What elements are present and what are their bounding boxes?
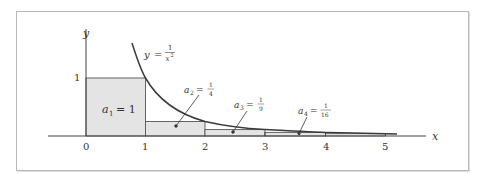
svg-text:3: 3 (240, 104, 244, 111)
svg-text:a: a (102, 103, 109, 116)
x-tick-3: 3 (262, 141, 268, 152)
svg-text:1: 1 (324, 102, 328, 109)
y-tick-1: 1 (74, 72, 80, 83)
x-tick-0: 0 (83, 141, 89, 152)
svg-text:1: 1 (109, 110, 113, 118)
svg-text:4: 4 (304, 110, 308, 117)
x-axis-label: x (432, 130, 439, 143)
svg-text:=: = (310, 106, 318, 116)
svg-text:1: 1 (259, 96, 263, 103)
y-axis-label: y (82, 27, 90, 40)
label-a1: a 1 = 1 (102, 103, 136, 118)
rect-a2 (146, 122, 206, 137)
svg-text:2: 2 (171, 52, 174, 58)
svg-text:y: y (143, 49, 150, 60)
svg-text:1: 1 (209, 81, 213, 88)
svg-text:= 1: = 1 (116, 103, 136, 116)
curve-label: y = 1 x 2 (143, 44, 175, 63)
rect-a4 (265, 132, 326, 136)
label-a2: a 2 = 1 4 (184, 81, 214, 97)
series-area-diagram: y x 1 0 1 2 3 4 5 y = 1 x 2 a 1 = 1 a 2 … (0, 0, 479, 174)
rect-a3 (205, 130, 265, 136)
svg-text:=: = (246, 100, 254, 110)
x-tick-5: 5 (382, 141, 388, 152)
svg-text:9: 9 (259, 105, 263, 112)
x-tick-4: 4 (323, 141, 329, 152)
svg-text:1: 1 (168, 44, 172, 52)
label-a4: a 4 = 1 16 (298, 102, 331, 118)
svg-text:2: 2 (190, 89, 194, 96)
x-tick-1: 1 (142, 141, 148, 152)
svg-text:x: x (166, 55, 170, 63)
leader-a3 (233, 111, 247, 132)
svg-text:a: a (234, 100, 239, 110)
svg-text:=: = (196, 85, 204, 95)
svg-text:a: a (184, 85, 189, 95)
label-a3: a 3 = 1 9 (234, 96, 264, 112)
x-tick-2: 2 (202, 141, 208, 152)
svg-text:=: = (154, 49, 162, 60)
svg-text:a: a (298, 106, 303, 116)
svg-text:16: 16 (321, 111, 329, 118)
svg-text:4: 4 (209, 90, 213, 97)
